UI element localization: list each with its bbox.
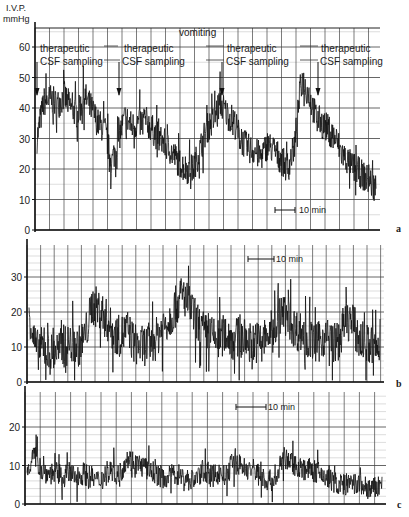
y-tick-label: 30 [11, 272, 23, 283]
scale-bar-label-c: 10 min [268, 402, 295, 412]
panel-c: 01020 [9, 386, 386, 510]
annotation-4-line2: CSF sampling [320, 56, 383, 67]
annotation-3-line1: therapeutic [227, 43, 276, 54]
y-tick-label: 20 [19, 164, 31, 175]
scale-bar-label-b: 10 min [276, 254, 303, 264]
y-tick-label: 60 [19, 42, 31, 53]
y-tick-label: 0 [24, 225, 30, 236]
y-tick-label: 10 [11, 342, 23, 353]
y-tick-label: 0 [16, 377, 22, 388]
y-tick-label: 50 [19, 73, 31, 84]
y-tick-label: 0 [14, 499, 20, 510]
annotation-vomiting: vomiting [179, 27, 216, 38]
panel-b: 0102030 [11, 239, 384, 388]
panel-letter-b: b [396, 378, 402, 389]
y-tick-label: 10 [9, 461, 21, 472]
annotation-3-line2: CSF sampling [226, 56, 289, 67]
panel-letter-c: c [397, 499, 402, 510]
panel-letter-a: a [396, 223, 401, 234]
y-tick-label: 20 [9, 422, 21, 433]
annotation-4-line1: therapeutic [321, 43, 370, 54]
y-tick-label: 40 [19, 103, 31, 114]
y-tick-label: 20 [11, 307, 23, 318]
scale-bar-label-a: 10 min [299, 205, 326, 215]
y-tick-label: 10 [19, 195, 31, 206]
y-axis-label-line1: I.V.P. [6, 3, 26, 13]
panel-a: 0102030405060 [19, 22, 380, 236]
annotation-1-line2: CSF sampling [40, 56, 103, 67]
y-tick-label: 30 [19, 134, 31, 145]
figure: 0102030405060 0102030 01020 I.V.P. mmHg … [0, 0, 409, 517]
y-axis-label-line2: mmHg [3, 14, 30, 24]
annotation-1-line1: therapeutic [40, 43, 89, 54]
annotation-2-line2: CSF sampling [122, 56, 185, 67]
annotation-2-line1: therapeutic [124, 43, 173, 54]
